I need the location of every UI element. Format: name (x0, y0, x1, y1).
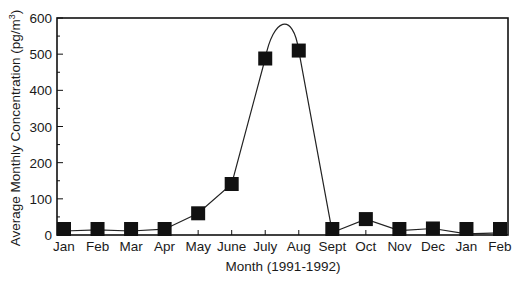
data-point-square (493, 222, 507, 236)
x-tick-label: Oct (355, 239, 376, 254)
y-tick-label: 200 (29, 156, 52, 171)
concentration-line-chart: 0100200300400500600 JanFebMarAprMayJuneJ… (0, 0, 522, 282)
x-tick-label: Nov (387, 239, 411, 254)
x-tick-label: Jan (53, 239, 75, 254)
y-tick-label: 400 (29, 83, 52, 98)
x-tick-label: Jan (456, 239, 478, 254)
x-tick-label: June (217, 239, 246, 254)
x-axis-title: Month (1991-1992) (226, 259, 341, 274)
data-point-square (292, 44, 306, 58)
x-tick-label: July (253, 239, 277, 254)
data-point-square (459, 222, 473, 236)
x-tick-label: Aug (287, 239, 311, 254)
plot-frame (57, 18, 508, 235)
data-point-square (258, 52, 272, 66)
y-axis-ticks: 0100200300400500600 (29, 11, 63, 243)
y-tick-label: 0 (44, 228, 52, 243)
data-point-square (325, 222, 339, 236)
x-axis-ticks: JanFebMarAprMayJuneJulyAugSeptOctNovDecJ… (53, 230, 512, 254)
y-axis-title: Average Monthly Concentration (pg/m3) (7, 10, 23, 247)
data-point-square (359, 212, 373, 226)
x-tick-label: Mar (119, 239, 143, 254)
x-tick-label: May (185, 239, 211, 254)
x-tick-label: Feb (488, 239, 511, 254)
y-tick-label: 600 (29, 11, 52, 26)
data-markers (57, 44, 507, 236)
data-point-square (426, 221, 440, 235)
data-point-square (392, 222, 406, 236)
data-point-square (225, 177, 239, 191)
y-tick-label: 300 (29, 120, 52, 135)
x-tick-label: Sept (318, 239, 346, 254)
x-tick-label: Feb (86, 239, 109, 254)
y-tick-label: 100 (29, 192, 52, 207)
data-point-square (191, 206, 205, 220)
series-line (64, 24, 500, 234)
data-point-square (91, 222, 105, 236)
data-point-square (158, 222, 172, 236)
data-point-square (124, 222, 138, 236)
x-tick-label: Dec (421, 239, 445, 254)
y-tick-label: 500 (29, 47, 52, 62)
x-tick-label: Apr (154, 239, 176, 254)
data-point-square (57, 222, 71, 236)
